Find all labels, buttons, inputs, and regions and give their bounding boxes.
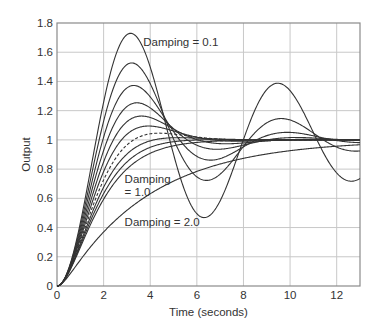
curve-damping-0-3 xyxy=(57,85,360,286)
y-tick-label: 0 xyxy=(47,280,53,292)
x-axis-ticks: 024681012 xyxy=(54,289,343,301)
x-tick-label: 4 xyxy=(147,289,154,301)
y-tick-label: 1.4 xyxy=(37,75,54,87)
x-tick-label: 2 xyxy=(100,289,106,301)
y-axis-label: Output xyxy=(20,136,32,171)
curve-damping-0-4 xyxy=(57,103,360,286)
step-response-chart: 024681012 00.20.40.60.811.21.41.61.8 Tim… xyxy=(0,0,378,331)
annotation-damping-2-0: Damping = 2.0 xyxy=(125,216,200,228)
x-axis-label: Time (seconds) xyxy=(169,306,248,318)
y-tick-label: 1.6 xyxy=(37,46,53,58)
y-tick-label: 1.8 xyxy=(37,17,53,29)
annotation-damping-1-0-line1: Damping xyxy=(125,173,171,185)
x-tick-label: 0 xyxy=(54,289,60,301)
curve-damping-0-9 xyxy=(57,140,360,286)
y-tick-label: 0.6 xyxy=(37,192,53,204)
y-tick-label: 0.4 xyxy=(37,222,54,234)
x-tick-label: 10 xyxy=(284,289,297,301)
y-axis-ticks: 00.20.40.60.811.21.41.61.8 xyxy=(37,17,54,292)
curve-damping-1 xyxy=(57,140,360,286)
x-tick-label: 8 xyxy=(240,289,246,301)
y-tick-label: 1.2 xyxy=(37,105,53,117)
x-tick-label: 12 xyxy=(330,289,343,301)
y-tick-label: 1 xyxy=(47,134,53,146)
curve-damping-0-7 xyxy=(57,133,360,286)
y-tick-label: 0.2 xyxy=(37,251,53,263)
response-curves xyxy=(57,33,360,286)
x-tick-label: 6 xyxy=(194,289,200,301)
annotation-damping-1-0-line2: = 1.0 xyxy=(125,186,151,198)
curve-damping-0-6 xyxy=(57,126,360,286)
y-tick-label: 0.8 xyxy=(37,163,53,175)
annotation-damping-0-1: Damping = 0.1 xyxy=(143,36,218,48)
